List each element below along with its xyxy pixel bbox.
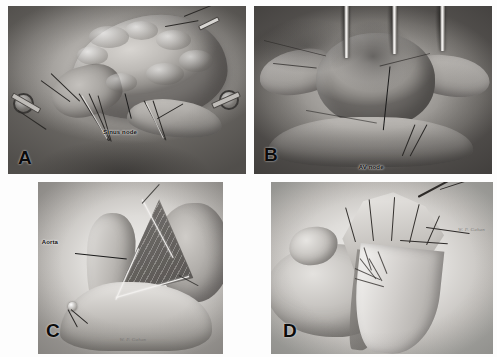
- tissue-lobule: [89, 26, 129, 48]
- artist-signature: W. P. Gahan: [119, 337, 146, 342]
- tissue-lobule: [106, 73, 137, 91]
- panel-d-illustration: [271, 182, 493, 354]
- retractor-blade-left: [344, 6, 349, 58]
- panel-b-illustration: [254, 6, 492, 174]
- panel-b-vignette: [254, 6, 492, 174]
- aorta-label: Aorta: [42, 239, 58, 245]
- panel-d-vignette: [271, 182, 493, 354]
- tissue-lobule: [77, 46, 108, 64]
- figure-plate: Sinus node A AV node B: [0, 0, 497, 357]
- panel-c-letter: C: [46, 321, 60, 340]
- sinus-node-label: Sinus node: [103, 129, 137, 135]
- retractor-blade-right: [440, 6, 445, 51]
- tissue-lobule: [146, 63, 184, 85]
- tissue-lobule: [156, 30, 192, 50]
- panel-d: W. P. Gahan D: [271, 182, 493, 354]
- panel-b: AV node B: [254, 6, 492, 174]
- panel-c: Aorta W. P. Gahan C: [38, 182, 223, 354]
- artist-signature: W. P. Gahan: [458, 227, 485, 232]
- tissue-lobule: [125, 21, 158, 39]
- panel-a: Sinus node A: [8, 6, 246, 174]
- tissue-lobule: [179, 50, 212, 72]
- panel-d-letter: D: [283, 321, 297, 340]
- retractor-blade-center: [392, 6, 397, 54]
- av-node-label: AV node: [359, 164, 384, 170]
- panel-a-letter: A: [18, 148, 32, 167]
- panel-b-letter: B: [264, 145, 278, 164]
